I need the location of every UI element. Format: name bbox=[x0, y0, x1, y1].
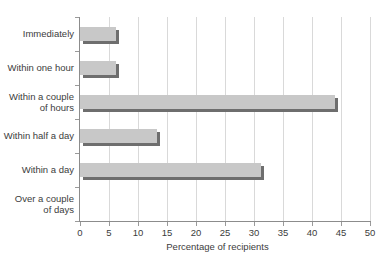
y-axis-tick bbox=[75, 187, 79, 188]
bar bbox=[80, 95, 335, 109]
bar bbox=[80, 27, 116, 41]
bar-row bbox=[80, 119, 370, 153]
y-axis-tick bbox=[75, 119, 79, 120]
x-axis-tick bbox=[196, 222, 197, 226]
gridline bbox=[370, 17, 371, 221]
x-axis-tick-label: 5 bbox=[94, 227, 124, 238]
y-axis-label: Within one hour bbox=[0, 62, 74, 74]
x-axis-title: Percentage of recipients bbox=[0, 241, 387, 252]
y-axis-label: Within a couple of hours bbox=[0, 91, 74, 114]
x-axis-tick-label: 20 bbox=[181, 227, 211, 238]
plot-area bbox=[80, 17, 370, 221]
y-axis-label: Within half a day bbox=[0, 130, 74, 142]
bar-row bbox=[80, 51, 370, 85]
x-axis-tick-label: 10 bbox=[123, 227, 153, 238]
y-axis-tick bbox=[75, 221, 79, 222]
bar-row bbox=[80, 85, 370, 119]
x-axis-tick bbox=[283, 222, 284, 226]
x-axis-tick bbox=[341, 222, 342, 226]
x-axis-tick bbox=[80, 222, 81, 226]
x-axis-tick bbox=[312, 222, 313, 226]
y-axis-label: Over a couple of days bbox=[0, 193, 74, 216]
x-axis-tick-label: 15 bbox=[152, 227, 182, 238]
y-axis-tick bbox=[75, 17, 79, 18]
x-axis-tick bbox=[167, 222, 168, 226]
bar-row bbox=[80, 187, 370, 221]
bar-row bbox=[80, 17, 370, 51]
y-axis-line bbox=[79, 17, 80, 222]
bar bbox=[80, 61, 116, 75]
y-axis-tick bbox=[75, 51, 79, 52]
x-axis-tick-label: 40 bbox=[297, 227, 327, 238]
x-axis-tick-label: 35 bbox=[268, 227, 298, 238]
y-axis-label: Within a day bbox=[0, 164, 74, 176]
x-axis-tick-label: 45 bbox=[326, 227, 356, 238]
bar bbox=[80, 129, 157, 143]
x-axis-tick-label: 0 bbox=[65, 227, 95, 238]
x-axis-tick bbox=[109, 222, 110, 226]
y-axis-label: Immediately bbox=[0, 28, 74, 40]
bar-chart: ImmediatelyWithin one hourWithin a coupl… bbox=[0, 0, 387, 263]
x-axis-tick bbox=[225, 222, 226, 226]
y-axis-tick bbox=[75, 85, 79, 86]
bar-row bbox=[80, 153, 370, 187]
x-axis-tick bbox=[254, 222, 255, 226]
x-axis-tick bbox=[138, 222, 139, 226]
x-axis-tick-label: 25 bbox=[210, 227, 240, 238]
x-axis-tick bbox=[370, 222, 371, 226]
bar bbox=[80, 163, 261, 177]
x-axis-tick-label: 30 bbox=[239, 227, 269, 238]
y-axis-tick bbox=[75, 153, 79, 154]
x-axis-tick-label: 50 bbox=[355, 227, 385, 238]
